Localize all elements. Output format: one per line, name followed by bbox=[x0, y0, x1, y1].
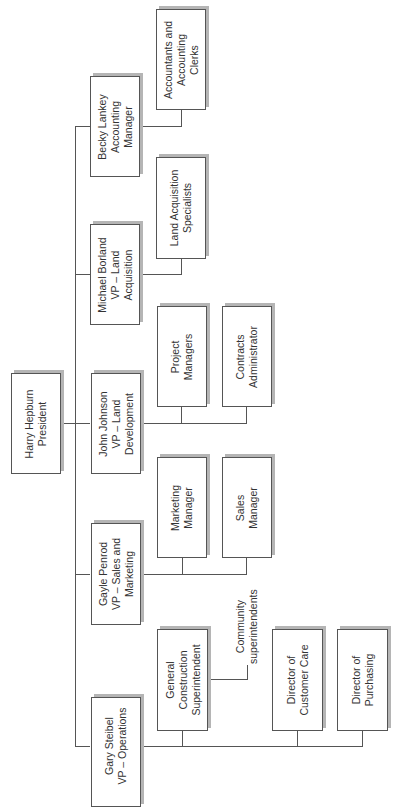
node-becky-lankey: Becky Lankey Accounting Manager bbox=[90, 76, 140, 177]
node-purchasing: Director of Purchasing bbox=[337, 629, 388, 731]
node-label: Director of Customer Care bbox=[285, 644, 311, 715]
node-customer-care: Director of Customer Care bbox=[272, 629, 323, 731]
gayle-children-h bbox=[140, 574, 247, 575]
michael-specialists-h bbox=[140, 274, 181, 275]
gayle-sales-v bbox=[246, 557, 247, 575]
gcs-community-v bbox=[247, 665, 248, 680]
trunk-line bbox=[75, 126, 76, 747]
node-label: Contracts Administrator bbox=[234, 326, 260, 388]
node-accountants: Accountants and Accounting Clerks bbox=[156, 9, 206, 110]
node-label: Director of Purchasing bbox=[350, 654, 376, 707]
gary-children-h bbox=[140, 746, 363, 747]
gcs-community-h bbox=[207, 679, 247, 680]
gary-purch-v bbox=[362, 730, 363, 747]
node-label: Accountants and Accounting Clerks bbox=[162, 20, 201, 98]
john-pm-v bbox=[181, 407, 182, 424]
node-label: Michael Borland VP – Land Acquisition bbox=[96, 237, 135, 312]
node-land-specialists: Land Acquisition Specialists bbox=[156, 157, 206, 259]
node-gary-steibel: Gary Steibel VP – Operations bbox=[91, 697, 141, 807]
gary-gcs-v bbox=[182, 730, 183, 747]
john-contracts-v bbox=[246, 407, 247, 424]
becky-accountants-v bbox=[181, 109, 182, 127]
gary-connector bbox=[75, 746, 90, 747]
node-label: Sales Manager bbox=[234, 487, 260, 528]
node-project-managers: Project Managers bbox=[157, 306, 207, 407]
john-children-h bbox=[140, 423, 247, 424]
michael-connector bbox=[75, 274, 90, 275]
node-label: Land Acquisition Specialists bbox=[168, 170, 194, 246]
gayle-mkt-v bbox=[182, 557, 183, 575]
node-president: Harry Hepburn President bbox=[11, 373, 61, 474]
node-sales-manager: Sales Manager bbox=[222, 457, 272, 558]
node-john-johnson: John Johnson VP – Land Development bbox=[91, 373, 141, 474]
michael-specialists-v bbox=[181, 258, 182, 275]
node-label: Project Managers bbox=[169, 333, 195, 380]
node-community-superintendents: Community superintendents bbox=[234, 589, 260, 664]
node-label: Harry Hepburn President bbox=[23, 389, 49, 458]
president-connector bbox=[60, 423, 90, 424]
node-label: Gayle Penrod VP – Sales and Marketing bbox=[97, 538, 136, 610]
node-general-construction: General Construction Superintendent bbox=[157, 629, 208, 731]
becky-connector bbox=[75, 126, 90, 127]
node-label: John Johnson VP – Land Development bbox=[97, 391, 136, 456]
becky-accountants-h bbox=[140, 126, 181, 127]
node-contracts-admin: Contracts Administrator bbox=[222, 306, 272, 407]
node-marketing-manager: Marketing Manager bbox=[157, 457, 207, 558]
node-label: Marketing Manager bbox=[169, 484, 195, 530]
node-michael-borland: Michael Borland VP – Land Acquisition bbox=[90, 224, 140, 325]
gary-care-v bbox=[297, 730, 298, 747]
node-label: Becky Lankey Accounting Manager bbox=[96, 94, 135, 159]
node-gayle-penrod: Gayle Penrod VP – Sales and Marketing bbox=[91, 523, 141, 625]
gayle-connector bbox=[75, 574, 90, 575]
node-label: Gary Steibel VP – Operations bbox=[103, 708, 129, 785]
node-label: General Construction Superintendent bbox=[163, 644, 202, 715]
